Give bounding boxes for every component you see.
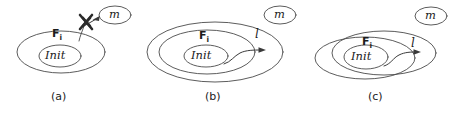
- panel-c-arrow-head: [414, 49, 422, 55]
- panel-b-l-label: l: [255, 28, 259, 40]
- panel-b-fi-subscript: i: [207, 35, 210, 44]
- panel-c-fi-label: Fi: [362, 36, 372, 50]
- panel-a-fi-letter: F: [52, 27, 60, 40]
- panel-c-init-label: Init: [351, 51, 371, 63]
- panel-b-message-label: m: [274, 9, 285, 21]
- panel-a-caption: (a): [51, 91, 66, 102]
- panel-c-caption: (c): [368, 91, 383, 102]
- panel-a-fi-subscript: i: [60, 33, 63, 42]
- panel-c-message-label: m: [425, 10, 436, 22]
- panel-b-outgoing-arrow-line: [224, 50, 261, 64]
- panel-b-caption: (b): [205, 91, 221, 102]
- panel-b-l-ellipse: [147, 22, 283, 82]
- panel-c-l-ellipse: [332, 31, 436, 75]
- figure-container: Fi Init m (a) Fi Init l m (b) Fi Init l …: [0, 0, 469, 113]
- panel-c-l-label: l: [411, 37, 415, 49]
- panel-b-fi-label: Fi: [199, 30, 209, 44]
- panel-b-arrow-head: [259, 47, 267, 53]
- panel-b-fi-letter: F: [199, 29, 207, 42]
- panel-c-fi-letter: F: [362, 35, 370, 48]
- panel-a-message-label: m: [109, 9, 120, 21]
- panel-b-init-label: Init: [191, 50, 211, 62]
- figure-vector-layer: [0, 0, 469, 113]
- panel-a-init-label: Init: [45, 50, 65, 62]
- panel-a-fi-label: Fi: [52, 28, 62, 42]
- panel-c-outgoing-arrow-line: [384, 52, 416, 66]
